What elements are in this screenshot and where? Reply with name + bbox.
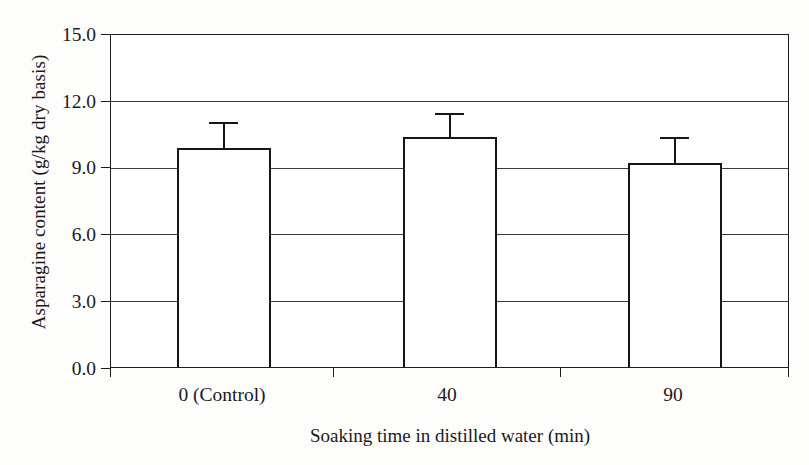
x-tick-mark-left <box>110 368 111 377</box>
figure-container: Asparagine content (g/kg dry basis) 15.0… <box>0 0 809 465</box>
error-bar-stem-40 <box>449 115 451 137</box>
x-tick-mark-1 <box>333 368 334 377</box>
x-tick-mark-right <box>788 368 789 377</box>
error-bar-stem-90 <box>674 139 676 163</box>
x-tick-label-90: 90 <box>573 384 773 406</box>
y-tick-label-9: 9.0 <box>26 158 96 178</box>
plot-area <box>110 34 789 368</box>
bar-0-control[interactable] <box>177 148 271 367</box>
gridline-12 <box>111 101 788 102</box>
error-bar-stem-0-control <box>223 124 225 148</box>
x-tick-label-0-control: 0 (Control) <box>122 384 322 406</box>
y-tick-label-6: 6.0 <box>26 225 96 245</box>
bar-90[interactable] <box>628 163 722 367</box>
y-tick-mark-3 <box>101 301 110 302</box>
x-tick-mark-2 <box>560 368 561 377</box>
y-tick-label-0: 0.0 <box>26 359 96 379</box>
x-tick-label-40: 40 <box>347 384 547 406</box>
error-bar-cap-40 <box>435 113 464 115</box>
bar-40[interactable] <box>403 137 497 367</box>
y-tick-mark-9 <box>101 167 110 168</box>
y-tick-mark-6 <box>101 234 110 235</box>
y-tick-mark-15 <box>101 34 110 35</box>
y-tick-mark-12 <box>101 101 110 102</box>
x-axis-title: Soaking time in distilled water (min) <box>110 425 790 447</box>
y-tick-label-12: 12.0 <box>26 92 96 112</box>
y-tick-label-15: 15.0 <box>26 25 96 45</box>
y-tick-mark-0 <box>101 368 110 369</box>
error-bar-cap-0-control <box>209 122 238 124</box>
y-tick-label-3: 3.0 <box>26 292 96 312</box>
error-bar-cap-90 <box>660 137 689 139</box>
y-axis-title: Asparagine content (g/kg dry basis) <box>22 2 56 382</box>
